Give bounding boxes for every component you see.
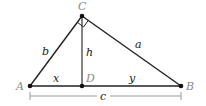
label-D: D: [85, 72, 95, 85]
label-c: c: [100, 90, 106, 103]
right-angle-marker: [77, 21, 88, 27]
point-C: [80, 14, 85, 19]
point-A: [28, 84, 33, 89]
label-A: A: [15, 80, 24, 93]
triangle-diagram: A B C D b h a x y c: [0, 0, 206, 106]
label-C: C: [78, 0, 87, 13]
label-B: B: [185, 80, 194, 93]
point-D: [80, 84, 85, 89]
point-B: [179, 84, 184, 89]
label-y: y: [128, 72, 136, 85]
label-h: h: [86, 46, 93, 59]
label-a: a: [135, 38, 142, 51]
label-x: x: [53, 72, 60, 85]
label-b: b: [42, 45, 49, 58]
